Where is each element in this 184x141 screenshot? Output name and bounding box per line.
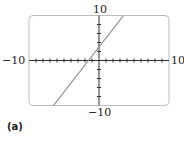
y-max-label: 10 (93, 4, 107, 15)
y-min-label: −10 (88, 107, 111, 118)
x-max-label: 10 (171, 55, 184, 66)
axes (29, 16, 169, 106)
panel-label: (a) (7, 121, 23, 132)
graph-window (0, 0, 184, 141)
x-min-label: −10 (2, 55, 25, 66)
